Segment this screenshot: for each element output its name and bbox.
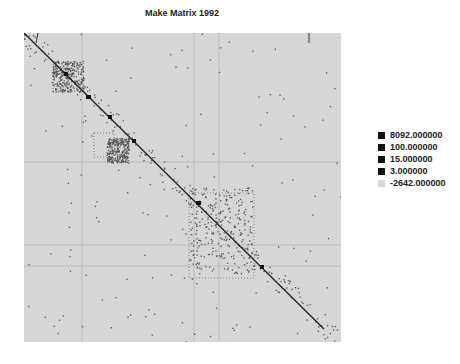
legend: 8092.000000 100.000000 15.000000 3.00000… bbox=[378, 129, 446, 189]
matrix-heatmap bbox=[24, 33, 341, 342]
legend-swatch-icon bbox=[378, 168, 385, 175]
legend-item: 15.000000 bbox=[378, 153, 446, 165]
legend-item: 8092.000000 bbox=[378, 129, 446, 141]
legend-item: -2642.000000 bbox=[378, 177, 446, 189]
legend-label: 3.000000 bbox=[390, 166, 428, 176]
legend-item: 100.000000 bbox=[378, 141, 446, 153]
legend-label: 100.000000 bbox=[390, 142, 438, 152]
legend-label: 8092.000000 bbox=[390, 130, 443, 140]
legend-swatch-icon bbox=[378, 156, 385, 163]
legend-swatch-icon bbox=[378, 144, 385, 151]
matrix-plot-area bbox=[24, 33, 341, 342]
legend-swatch-icon bbox=[378, 132, 385, 139]
legend-label: -2642.000000 bbox=[390, 178, 446, 188]
legend-label: 15.000000 bbox=[390, 154, 433, 164]
legend-swatch-icon bbox=[378, 180, 385, 187]
legend-item: 3.000000 bbox=[378, 165, 446, 177]
chart-title: Make Matrix 1992 bbox=[0, 8, 364, 18]
